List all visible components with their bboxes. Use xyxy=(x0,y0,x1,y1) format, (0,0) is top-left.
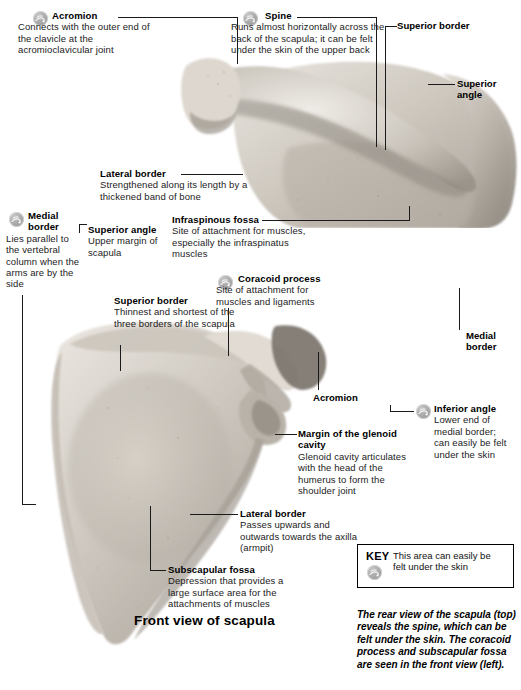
leader-line-infraspinous-fossa xyxy=(262,220,410,221)
skin-badge-icon-inferior-angle xyxy=(416,404,431,419)
annotation-superior-border-top: Superior border xyxy=(397,20,507,31)
annotation-glenoid-margin: Margin of the glenoid cavity Glenoid cav… xyxy=(298,428,420,496)
hand-touch-skin-icon xyxy=(367,565,382,580)
annotation-superior-angle-top: Superior angle xyxy=(457,78,517,101)
annotation-body: Connects with the outer end of the clavi… xyxy=(18,21,160,55)
leader-line-superior-angle-mid-top xyxy=(79,224,87,225)
annotation-title: Medial border xyxy=(466,330,496,352)
leader-line-superior-border-top xyxy=(385,26,397,27)
annotation-title: Superior angle xyxy=(88,224,166,235)
leader-line-superior-angle-top xyxy=(428,84,455,85)
annotation-title: Superior border xyxy=(114,295,236,306)
leader-line-medial-border-right xyxy=(459,288,460,330)
leader-line-subscapular-fossa xyxy=(150,570,166,571)
annotation-acromion-lower: Acromion xyxy=(313,392,383,403)
annotation-body: Passes upwards and outwards towards the … xyxy=(240,519,358,553)
leader-line-acromion-top xyxy=(118,17,238,18)
key-label-text: KEY xyxy=(366,550,389,562)
annotation-body: Upper margin of scapula xyxy=(88,235,166,258)
annotation-title: Inferior angle xyxy=(434,403,514,414)
leader-line-glenoid-margin xyxy=(275,434,297,435)
annotation-lateral-border-lower: Lateral border Passes upwards and outwar… xyxy=(240,508,358,554)
leader-line-superior-border-mid xyxy=(120,345,121,371)
front-view-title: Front view of scapula xyxy=(134,613,275,628)
leader-line-lateral-border-top xyxy=(181,174,243,175)
annotation-medial-border-right: Medial border xyxy=(466,330,516,353)
annotation-medial-border-left: Medial border Lies parallel to the verte… xyxy=(6,210,84,290)
leader-line-medial-border-left-end xyxy=(22,504,36,505)
annotation-title: Margin of the glenoid cavity xyxy=(298,428,420,451)
leader-line-spine-drop xyxy=(376,17,377,147)
leader-line-superior-border-top-drop xyxy=(385,26,386,150)
annotation-title: Spine xyxy=(265,10,385,21)
figure-caption: The rear view of the scapula (top) revea… xyxy=(357,609,521,671)
annotation-body: Thinnest and shortest of the three borde… xyxy=(114,306,236,329)
leader-line-medial-border-left xyxy=(22,295,23,505)
figure-caption-text: The rear view of the scapula (top) revea… xyxy=(357,609,516,670)
leader-line-inferior-angle-drop xyxy=(390,405,391,412)
leader-line-subscapular-fossa-top xyxy=(150,506,151,507)
scapula-anatomy-figure: Acromion Connects with the outer end of … xyxy=(0,0,521,690)
key-description-text: This area can easily be felt under the s… xyxy=(393,550,491,572)
annotation-title: Acromion xyxy=(52,10,160,21)
annotation-body: Runs almost horizontally across the back… xyxy=(231,21,385,55)
leader-line-infraspinous-fossa-drop xyxy=(409,206,410,220)
annotation-body: Lower end of medial border; can easily b… xyxy=(434,414,514,460)
annotation-superior-border-mid: Superior border Thinnest and shortest of… xyxy=(114,295,236,329)
annotation-body: Lies parallel to the vertebral column wh… xyxy=(6,233,84,290)
leader-line-spine xyxy=(297,17,377,18)
leader-line-inferior-angle xyxy=(390,411,414,412)
leader-line-subscapular-fossa-rise xyxy=(150,506,151,570)
annotation-title: Superior angle xyxy=(457,78,496,100)
annotation-body: Strengthened along its length by a thick… xyxy=(100,179,250,202)
annotation-title: Acromion xyxy=(313,392,358,403)
annotation-title: Lateral border xyxy=(240,508,358,519)
annotation-title: Subscapular fossa xyxy=(168,564,293,575)
key-description: This area can easily be felt under the s… xyxy=(393,550,505,573)
hand-touch-skin-icon xyxy=(416,404,431,419)
annotation-title: Coracoid process xyxy=(238,273,341,284)
leader-line-lateral-border-lower xyxy=(190,514,238,515)
annotation-subscapular-fossa: Subscapular fossa Depression that provid… xyxy=(168,564,293,610)
leader-line-superior-angle-mid xyxy=(79,224,80,233)
annotation-body: Site of attachment for muscles, especial… xyxy=(172,225,307,259)
annotation-body: Glenoid cavity articulates with the head… xyxy=(298,451,420,497)
annotation-body: Depression that provides a large surface… xyxy=(168,575,293,609)
annotation-title: Superior border xyxy=(397,20,470,31)
annotation-superior-angle-mid: Superior angle Upper margin of scapula xyxy=(88,224,166,258)
annotation-title: Medial border xyxy=(28,210,84,233)
leader-line-acromion-lower xyxy=(318,352,319,390)
key-label: KEY xyxy=(366,550,389,562)
front-view-title-text: Front view of scapula xyxy=(134,613,275,628)
skin-badge-icon-key xyxy=(367,565,382,580)
annotation-inferior-angle: Inferior angle Lower end of medial borde… xyxy=(434,403,514,460)
